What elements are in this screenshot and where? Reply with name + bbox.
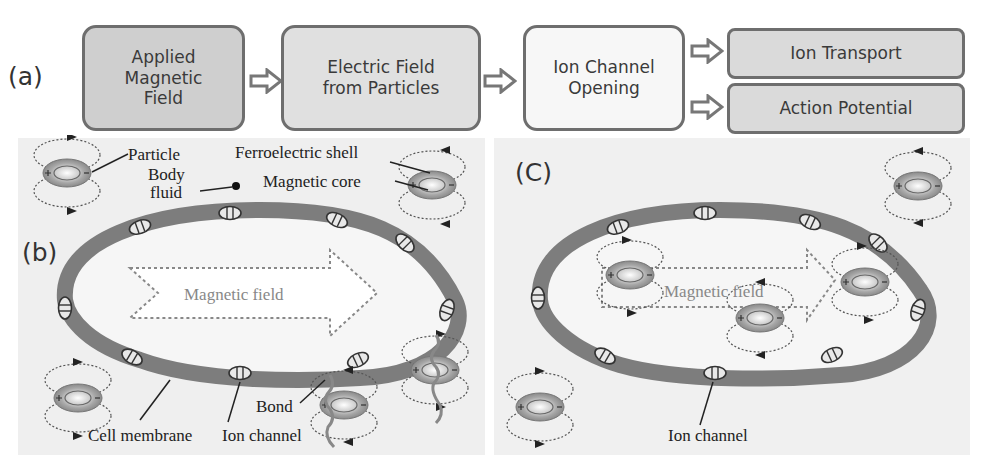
label-magnetic-field-b: Magnetic field	[184, 285, 284, 304]
label-bond: Bond	[256, 397, 293, 416]
box-ion-channel-opening-text: Ion Channel Opening	[553, 57, 654, 98]
label-particle: Particle	[128, 145, 180, 164]
box-electric-field-text: Electric Field from Particles	[323, 57, 440, 98]
label-magnetic-field-c: Magnetic field	[664, 282, 764, 301]
label-ion-channel-b: Ion channel	[222, 426, 302, 445]
panel-a-label: (a)	[8, 62, 43, 91]
box-applied-magnetic-field-text: Applied Magnetic Field	[125, 47, 203, 109]
hollow-arrow-icon	[483, 68, 517, 94]
hollow-arrow-icon	[690, 38, 724, 64]
panel-c-label: (C)	[515, 158, 552, 187]
box-applied-magnetic-field: Applied Magnetic Field	[82, 25, 245, 131]
hollow-arrow-icon	[249, 68, 283, 94]
box-ion-transport-text: Ion Transport	[790, 43, 901, 64]
label-ferroelectric-shell: Ferroelectric shell	[235, 143, 358, 162]
box-electric-field: Electric Field from Particles	[281, 25, 481, 131]
box-ion-transport: Ion Transport	[727, 28, 965, 79]
label-ion-channel-c: Ion channel	[668, 426, 748, 445]
box-action-potential-text: Action Potential	[779, 98, 912, 119]
panel-b-label: (b)	[22, 238, 57, 267]
label-fluid: fluid	[150, 183, 183, 202]
label-body: Body	[148, 165, 185, 184]
box-action-potential: Action Potential	[727, 83, 965, 134]
hollow-arrow-icon	[690, 94, 724, 120]
box-ion-channel-opening: Ion Channel Opening	[523, 25, 685, 131]
cell-diagram: Particle Body fluid Ferroelectric shell …	[0, 135, 986, 468]
label-cell-membrane: Cell membrane	[88, 426, 192, 445]
label-magnetic-core: Magnetic core	[263, 172, 361, 191]
